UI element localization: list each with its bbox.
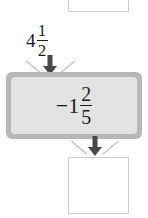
- operation-whole: 1: [68, 95, 79, 117]
- spark-line-bottom-right: [103, 141, 119, 155]
- input-label-numerator: 1: [37, 22, 48, 39]
- spark-line-bottom-left: [71, 141, 87, 155]
- function-machine-diagram: 4 1 2 − 1 2 5: [0, 0, 148, 218]
- input-value-box[interactable]: [68, 0, 129, 12]
- input-label-fraction: 1 2: [37, 22, 48, 60]
- output-value-box[interactable]: [68, 157, 129, 214]
- operation-sign: −: [56, 95, 68, 117]
- input-value-label: 4 1 2: [26, 22, 48, 60]
- operation-expression: − 1 2 5: [56, 84, 92, 128]
- operation-denominator: 5: [80, 107, 92, 127]
- operation-machine-box: − 1 2 5: [6, 72, 142, 139]
- operation-fraction: 2 5: [80, 84, 92, 128]
- down-arrow-icon-bottom: [87, 136, 103, 156]
- operation-machine-face: − 1 2 5: [11, 77, 137, 134]
- input-label-whole: 4: [26, 31, 36, 50]
- operation-numerator: 2: [80, 84, 92, 104]
